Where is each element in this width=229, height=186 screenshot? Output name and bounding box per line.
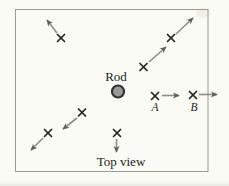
field-point-point-a: A bbox=[150, 93, 179, 113]
field-vector-arrow-icon bbox=[149, 47, 166, 62]
field-point-upper-right-inner bbox=[140, 47, 166, 71]
field-points-layer: AB bbox=[31, 18, 217, 152]
field-point-upper-right-outer bbox=[168, 18, 194, 42]
top-view-caption: Top view bbox=[97, 154, 146, 169]
field-point-bottom-center bbox=[114, 130, 121, 153]
field-vector-arrow-icon bbox=[47, 20, 57, 33]
rod-label: Rod bbox=[105, 69, 127, 84]
point-label-a: A bbox=[150, 101, 159, 113]
rod-dot bbox=[112, 86, 124, 98]
field-point-lower-left-outer bbox=[31, 130, 52, 151]
top-view-diagram: Rod AB Top view bbox=[0, 0, 229, 186]
field-vector-arrow-icon bbox=[63, 118, 77, 129]
field-point-lower-left-inner bbox=[63, 109, 86, 129]
field-vector-arrow-icon bbox=[176, 18, 193, 34]
point-label-b: B bbox=[190, 101, 197, 113]
textbook-figure-top-view: Rod AB Top view bbox=[0, 0, 229, 186]
field-point-point-b: B bbox=[190, 92, 218, 113]
field-vector-arrow-icon bbox=[31, 138, 43, 150]
field-point-upper-left bbox=[47, 20, 65, 42]
